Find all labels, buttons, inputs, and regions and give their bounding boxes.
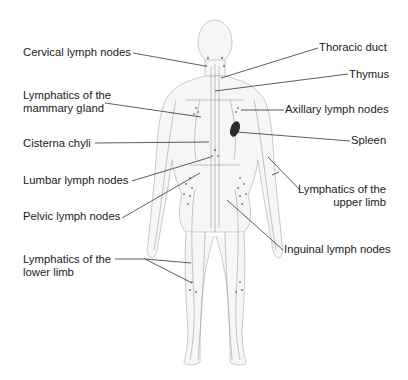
leader-cervical <box>133 53 205 66</box>
label-thymus: Thymus <box>349 68 389 81</box>
label-thoracic-duct: Thoracic duct <box>319 41 387 54</box>
leader-thoracic <box>221 48 318 78</box>
label-lumbar-lymph-nodes: Lumbar lymph nodes <box>23 174 129 187</box>
label-upper-limb-line2: upper limb <box>333 196 386 209</box>
label-spleen: Spleen <box>351 134 386 147</box>
label-axillary-lymph-nodes: Axillary lymph nodes <box>285 103 389 116</box>
label-cisterna-chyli: Cisterna chyli <box>23 137 91 150</box>
label-upper-limb-line1: Lymphatics of the <box>298 183 386 196</box>
label-lower-limb-line1: Lymphatics of the <box>23 253 111 266</box>
label-mammary-line1: Lymphatics of the <box>23 89 111 102</box>
label-mammary-line2: mammary gland <box>23 102 104 115</box>
label-pelvic-lymph-nodes: Pelvic lymph nodes <box>23 210 120 223</box>
label-lower-limb-line2: lower limb <box>23 266 74 279</box>
lymphatic-system-diagram: Cervical lymph nodes Lymphatics of the m… <box>0 0 408 380</box>
label-inguinal-lymph-nodes: Inguinal lymph nodes <box>284 243 391 256</box>
label-cervical-lymph-nodes: Cervical lymph nodes <box>23 46 131 59</box>
